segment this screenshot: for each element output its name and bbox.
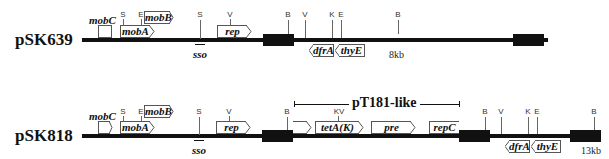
plasmid-name-psk818: pSK818 <box>15 126 73 146</box>
gene-unnamed <box>293 121 307 134</box>
site-tick <box>123 116 124 121</box>
site-tick <box>332 20 333 38</box>
size-label-psk639: 8kb <box>389 49 404 60</box>
size-label-psk818: 13kb <box>581 145 601 156</box>
gene-mobB: mobB <box>144 11 170 24</box>
gene-mobc <box>98 25 112 38</box>
site-kv: KV <box>331 108 347 116</box>
backbone-psk818 <box>82 134 600 138</box>
site-v: V <box>339 107 344 116</box>
site-v: V <box>495 108 507 116</box>
gene-mobA: mobA <box>120 25 150 38</box>
gene-dfrA: dfrA <box>509 140 530 153</box>
site-v: V <box>299 11 311 19</box>
site-tick <box>341 20 342 38</box>
site-tick <box>485 117 486 130</box>
site-b: B <box>588 108 600 116</box>
site-s: S <box>117 108 129 116</box>
gene-label-moba: mobA <box>122 25 149 37</box>
gene-label-rep: rep <box>225 25 240 37</box>
gene-repC: repC <box>429 121 459 134</box>
gene-label-thye: thyE <box>341 44 362 56</box>
gene-rep: rep <box>217 25 247 38</box>
origin-label-sso: sso <box>193 48 207 60</box>
site-v: V <box>223 108 235 116</box>
gene-label-dfra: dfrA <box>313 44 334 56</box>
site-tick <box>398 20 399 34</box>
site-s: S <box>117 11 129 19</box>
insert-block-psk818-1 <box>262 130 293 142</box>
gene-rep: rep <box>216 121 246 134</box>
site-b: B <box>281 108 293 116</box>
gene-label-pre: pre <box>384 121 399 133</box>
site-e: E <box>335 11 347 19</box>
gene-label-repc: repC <box>434 121 456 133</box>
plasmid-map-figure: pSK639 mobC mobA mobB S E S sso V rep B … <box>0 0 609 159</box>
gene-mobB: mobB <box>144 105 170 118</box>
plasmid-name-psk639: pSK639 <box>15 30 73 50</box>
sso-marker <box>194 140 204 141</box>
gene-mobA: mobA <box>120 121 150 134</box>
site-tick <box>287 117 288 130</box>
arrowhead-right-icon <box>245 121 251 134</box>
site-e: E <box>531 108 543 116</box>
site-b: B <box>479 108 491 116</box>
site-e: E <box>135 11 147 19</box>
site-tick <box>123 19 124 25</box>
gene-label-teta-k: tetA(K) <box>321 121 354 133</box>
site-tick <box>200 20 201 39</box>
site-s: S <box>194 11 206 19</box>
site-s: S <box>193 108 205 116</box>
insert-block-psk818-2 <box>459 130 490 142</box>
site-tick <box>141 19 142 25</box>
gene-label-rep: rep <box>224 121 239 133</box>
gene-label-moba: mobA <box>122 121 149 133</box>
arrowhead-right-icon <box>109 121 113 134</box>
site-tick <box>528 117 529 134</box>
insert-block-psk639-2 <box>513 34 544 46</box>
site-b: B <box>392 11 404 19</box>
backbone-psk639 <box>82 38 548 42</box>
gene-label-thye: thyE <box>537 140 558 152</box>
origin-label-sso: sso <box>192 144 206 156</box>
arrowhead-right-icon <box>306 121 312 134</box>
arrowhead-right-icon <box>149 25 155 38</box>
insert-block-psk818-3 <box>570 130 601 142</box>
arrowhead-right-icon <box>149 121 155 134</box>
arrowhead-right-icon <box>169 105 174 118</box>
arrowhead-right-icon <box>358 121 364 134</box>
gene-dfrA: dfrA <box>313 44 334 57</box>
site-tick <box>288 20 289 34</box>
arrowhead-right-icon <box>169 11 174 24</box>
region-label-pt181-like: pT181-like <box>349 95 420 111</box>
gene-thyE: thyE <box>339 44 365 57</box>
site-tick <box>141 116 142 121</box>
site-e: E <box>135 108 147 116</box>
sso-marker <box>195 44 205 45</box>
gene-tetA-K: tetA(K) <box>315 121 359 134</box>
arrowhead-right-icon <box>246 25 252 38</box>
site-tick <box>501 117 502 134</box>
site-tick <box>199 117 200 135</box>
gene-label-mobb: mobB <box>145 105 172 117</box>
site-b: B <box>282 11 294 19</box>
site-tick <box>537 117 538 134</box>
insert-block-psk639-1 <box>263 34 294 46</box>
site-v: V <box>224 11 236 19</box>
gene-label-dfra: dfrA <box>509 140 530 152</box>
gene-thyE: thyE <box>535 140 561 153</box>
site-tick <box>594 117 595 130</box>
arrowhead-right-icon <box>410 121 416 134</box>
gene-pre: pre <box>371 121 411 134</box>
gene-label-mobb: mobB <box>145 11 172 23</box>
site-tick <box>305 20 306 38</box>
region-bracket-right <box>459 101 460 107</box>
